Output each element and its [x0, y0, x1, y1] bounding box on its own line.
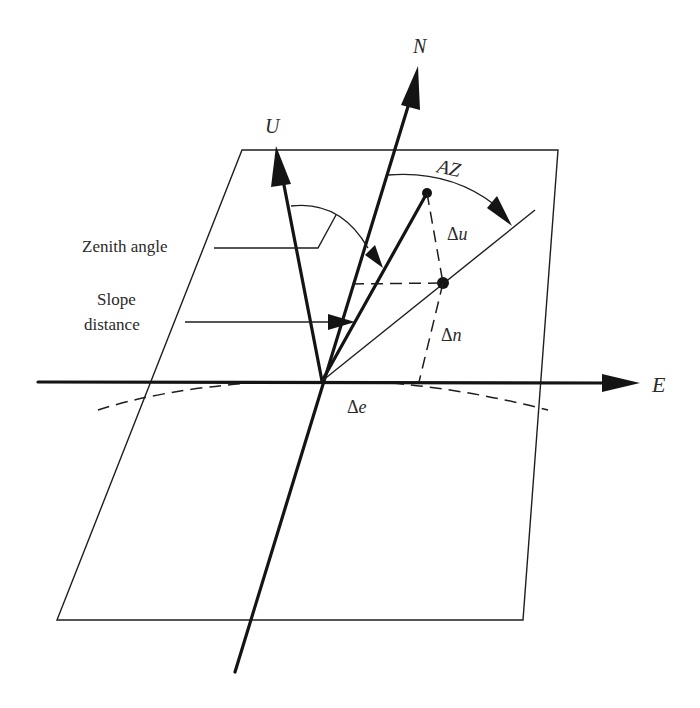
east-axis-arrowhead-icon: [602, 374, 640, 392]
slope-distance-label-line1: Slope: [97, 290, 136, 309]
delta-u-dashed-line: [427, 193, 443, 283]
slope-distance-label-line2: distance: [84, 315, 140, 334]
up-axis-arrowhead-icon: [271, 146, 291, 187]
north-axis-line: [235, 100, 410, 672]
delta-n-variable: n: [453, 325, 462, 345]
delta-e-symbol: Δ: [347, 397, 359, 417]
enu-coordinate-diagram: E N U AZ Zenith angle Slope distance Δu …: [0, 0, 700, 708]
zenith-arrowhead-icon: [365, 245, 383, 268]
azimuth-arc: [388, 174, 495, 205]
projection-dashed-line: [352, 283, 443, 284]
east-axis-label: E: [651, 372, 666, 397]
up-axis-label: U: [265, 115, 281, 137]
zenith-angle-label: Zenith angle: [82, 237, 167, 256]
delta-u-variable: u: [459, 224, 468, 244]
azimuth-arrowhead-icon: [487, 196, 512, 226]
delta-n-symbol: Δ: [441, 325, 453, 345]
delta-u-symbol: Δ: [447, 224, 459, 244]
delta-n-label: Δn: [441, 325, 462, 345]
up-axis-line: [283, 180, 322, 381]
delta-n-dashed-line: [419, 283, 443, 382]
north-axis-arrowhead-icon: [401, 66, 420, 110]
horizontal-plane: [57, 150, 558, 620]
delta-e-variable: e: [359, 397, 367, 417]
north-axis-label: N: [412, 35, 428, 57]
delta-u-label: Δu: [447, 224, 468, 244]
azimuth-label: AZ: [433, 154, 463, 181]
horizontal-projection-line: [322, 210, 535, 381]
zenith-angle-leader-line: [214, 215, 336, 248]
delta-e-label: Δe: [347, 397, 367, 417]
